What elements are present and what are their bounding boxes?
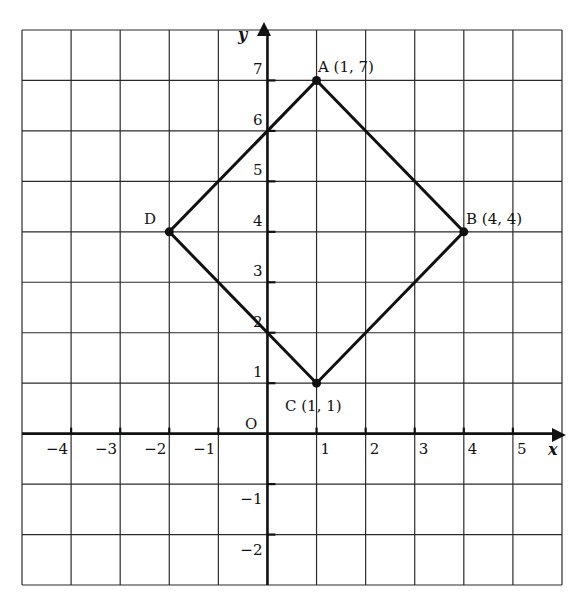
point-a-label: A (1, 7) [317,58,374,76]
grid-lines [22,30,562,585]
y-tick-label: 4 [253,212,263,230]
x-tick-label: −4 [46,440,68,458]
x-tick-label: 2 [370,440,380,458]
x-tick-label: 5 [517,440,527,458]
x-axis-arrow-icon [552,428,566,442]
x-axis-label: x [547,440,558,459]
y-tick-label: 5 [253,161,263,179]
x-tick-label: 1 [321,440,331,458]
coordinate-grid-figure: −4−3−2−1123457654321−1−2 y x O A (1, 7) … [0,0,579,598]
x-tick-label: −1 [193,440,215,458]
x-tick-label: 4 [468,440,478,458]
x-tick-label: −3 [95,440,117,458]
point-d-label: D [144,210,156,228]
y-tick-label: −2 [240,541,262,559]
y-axis-label: y [237,25,249,44]
axis-ticks [71,80,513,534]
vertex-c [312,379,321,388]
y-tick-label: 3 [253,262,263,280]
y-tick-label: 6 [253,111,263,129]
y-axis-arrow-icon [257,22,271,36]
y-tick-label: 7 [253,60,263,78]
vertex-a [312,76,321,85]
axes [22,30,556,585]
y-tick-label: 1 [253,363,263,381]
vertex-d [165,227,174,236]
point-c-label: C (1, 1) [285,397,342,415]
y-tick-label: −1 [240,490,262,508]
x-tick-label: −2 [144,440,166,458]
point-b-label: B (4, 4) [466,210,522,228]
origin-label: O [245,415,257,433]
vertex-b [459,227,468,236]
x-tick-label: 3 [419,440,429,458]
